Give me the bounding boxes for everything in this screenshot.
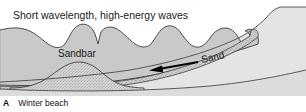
beach-profile-diagram: Short wavelength, high-energy waves Sand… <box>0 0 306 96</box>
sandbar-label: Sandbar <box>58 48 96 59</box>
caption-letter: A <box>3 98 9 109</box>
winter-beach-figure: Short wavelength, high-energy waves Sand… <box>0 0 306 112</box>
caption-text: Winter beach <box>18 98 68 109</box>
figure-caption: A Winter beach <box>0 98 306 112</box>
headline-label: Short wavelength, high-energy waves <box>13 9 188 21</box>
